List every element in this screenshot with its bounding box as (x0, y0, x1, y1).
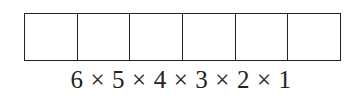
times-operator: × (257, 66, 272, 93)
factor: 1 (279, 66, 292, 93)
box-row (24, 13, 341, 61)
box-slot-2 (78, 14, 131, 60)
times-operator: × (132, 66, 147, 93)
factor: 4 (154, 66, 167, 93)
box-slot-1 (25, 14, 78, 60)
times-operator: × (90, 66, 105, 93)
factor: 6 (70, 66, 83, 93)
box-slot-6 (288, 14, 340, 60)
product-expression: 6×5×4×3×2×1 (0, 66, 362, 94)
box-slot-4 (183, 14, 236, 60)
factor: 2 (237, 66, 250, 93)
box-slot-3 (130, 14, 183, 60)
factor: 3 (195, 66, 208, 93)
times-operator: × (215, 66, 230, 93)
factor: 5 (112, 66, 125, 93)
box-slot-5 (236, 14, 289, 60)
times-operator: × (174, 66, 189, 93)
